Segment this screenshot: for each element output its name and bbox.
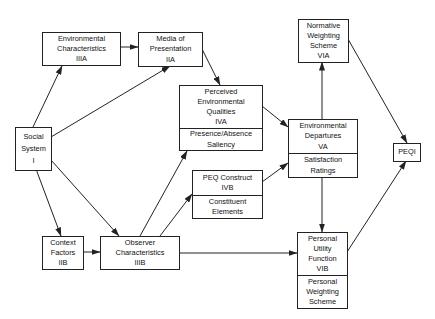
edge-social-to-context: [33, 161, 61, 236]
label-line: Normative: [307, 21, 341, 31]
label-line: Utility: [313, 244, 331, 254]
label-line: Personal: [308, 277, 337, 287]
node-sub: Constituent Elements: [193, 195, 262, 218]
node-media-of-presentation: Media of Presentation IIA: [138, 32, 203, 67]
edge-social-to-env-char: [33, 66, 62, 127]
label-line: Characteristics: [57, 44, 106, 54]
label-line: I: [32, 155, 34, 167]
label-line: Characteristics: [116, 248, 165, 258]
label-line: Weighting: [306, 287, 339, 297]
label-line: Perceived: [205, 87, 238, 97]
label-line: IIIA: [76, 54, 87, 64]
edge-observer-to-peq-qual: [140, 151, 187, 236]
node-sub: Satisfaction Ratings: [289, 153, 357, 177]
node-main: Context Factors IIB: [43, 237, 83, 269]
node-observer-characteristics: Observer Characteristics IIIB: [100, 236, 180, 270]
label-line: Satisfaction: [304, 155, 342, 165]
node-main: Media of Presentation IIA: [139, 33, 202, 66]
label-line: PEQ Construct: [203, 173, 252, 183]
label-line: Media of: [156, 34, 184, 44]
label-line: IIIB: [134, 258, 145, 268]
edge-social-to-observer: [51, 160, 119, 236]
node-environmental-departures: Environmental Departures VA Satisfaction…: [288, 119, 358, 178]
label-line: Function: [308, 254, 336, 264]
node-main: Normative Weighting Scheme VIA: [299, 20, 348, 62]
node-main: Social System I: [16, 128, 51, 170]
node-social-system: Social System I: [15, 127, 52, 171]
label-line: Social: [23, 131, 43, 143]
label-line: Constituent: [209, 197, 246, 207]
node-peq-construct: PEQ Construct IVB Constituent Elements: [192, 170, 263, 219]
node-normative-weighting-scheme: Normative Weighting Scheme VIA: [298, 19, 349, 63]
node-main: PEQI: [394, 144, 420, 161]
label-line: VIB: [317, 264, 329, 274]
node-personal-utility-function: Personal Utility Function VIB Personal W…: [297, 232, 348, 309]
node-environmental-characteristics: Environmental Characteristics IIIA: [42, 32, 121, 66]
node-main: Environmental Departures VA: [289, 120, 357, 153]
label-line: Environmental: [58, 34, 105, 44]
label-line: Ratings: [310, 166, 335, 176]
node-main: Personal Utility Function VIB: [298, 233, 347, 275]
label-line: System: [21, 143, 46, 155]
label-line: Personal: [308, 234, 337, 244]
label-line: Scheme: [310, 41, 337, 51]
label-line: IVA: [215, 117, 226, 127]
label-line: Elements: [212, 207, 243, 217]
node-sub: Presence/Absence Saliency: [180, 128, 262, 150]
label-line: Weighting: [307, 31, 340, 41]
node-perceived-environmental-qualities: Perceived Environmental Qualities IVA Pr…: [179, 85, 263, 151]
label-line: VIA: [318, 51, 330, 61]
label-line: Presence/Absence: [190, 129, 252, 139]
edge-peq-construct-to-env-dep: [262, 163, 288, 182]
label-line: IIA: [166, 55, 175, 65]
edge-media-to-peq-qual: [202, 49, 220, 85]
label-line: Observer: [125, 238, 155, 248]
label-line: PEQI: [398, 147, 416, 157]
label-line: Qualities: [207, 107, 236, 117]
node-main: PEQ Construct IVB: [193, 171, 262, 195]
node-context-factors: Context Factors IIB: [42, 236, 84, 270]
edge-social-to-media: [51, 66, 170, 137]
label-line: Environmental: [299, 121, 346, 131]
label-line: Scheme: [309, 297, 336, 307]
label-line: Presentation: [150, 44, 192, 54]
label-line: VA: [318, 142, 327, 152]
node-main: Observer Characteristics IIIB: [101, 237, 179, 269]
label-line: Context: [50, 238, 75, 248]
label-line: IVB: [222, 183, 234, 193]
label-line: Saliency: [207, 140, 235, 150]
node-peqi: PEQI: [393, 143, 421, 162]
node-main: Environmental Characteristics IIIA: [43, 33, 120, 65]
edge-observer-to-peq-construct: [160, 194, 192, 236]
edge-peq-qual-to-env-dep: [262, 106, 288, 127]
node-main: Perceived Environmental Qualities IVA: [180, 86, 262, 128]
label-line: Environmental: [197, 97, 244, 107]
label-line: IIB: [58, 258, 67, 268]
label-line: Departures: [305, 131, 342, 141]
label-line: Factors: [51, 248, 76, 258]
node-sub: Personal Weighting Scheme: [298, 275, 347, 308]
